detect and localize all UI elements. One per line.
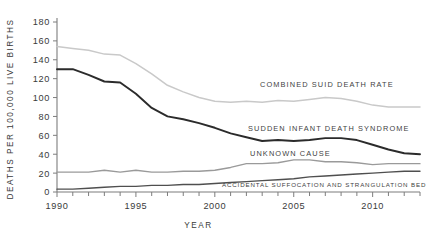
series-lines xyxy=(57,47,420,190)
y-tick-label: 180 xyxy=(33,17,50,27)
x-tick-label: 2000 xyxy=(203,201,226,211)
y-axis-title: DEATHS PER 100,000 LIVE BIRTHS xyxy=(6,19,15,200)
y-tick-label: 100 xyxy=(33,93,50,103)
x-axis-title: YEAR xyxy=(184,221,212,230)
x-axis-group: 19901995200020052010 xyxy=(46,192,420,211)
y-tick-label: 60 xyxy=(39,131,50,141)
y-tick-label: 120 xyxy=(33,74,50,84)
x-tick-label: 1990 xyxy=(46,201,69,211)
series-inline-label: COMBINED SUID DEATH RATE xyxy=(260,80,394,89)
y-axis-group: 020406080100120140160180 xyxy=(33,17,57,197)
series-inline-label: SUDDEN INFANT DEATH SYNDROME xyxy=(248,124,410,133)
x-axis-tick-labels: 19901995200020052010 xyxy=(46,201,384,211)
y-tick-label: 40 xyxy=(39,150,50,160)
x-tick-label: 2010 xyxy=(361,201,384,211)
y-tick-label: 0 xyxy=(44,187,50,197)
x-tick-label: 2005 xyxy=(282,201,305,211)
y-tick-label: 80 xyxy=(39,112,50,122)
y-tick-label: 160 xyxy=(33,36,50,46)
series-line xyxy=(57,47,420,107)
chart-container: 020406080100120140160180 199019952000200… xyxy=(0,0,434,237)
y-tick-label: 140 xyxy=(33,55,50,65)
y-axis-ticks xyxy=(53,22,57,192)
series-inline-label: UNKNOWN CAUSE xyxy=(250,149,331,158)
y-axis-tick-labels: 020406080100120140160180 xyxy=(33,17,50,197)
suid-death-rate-line-chart: 020406080100120140160180 199019952000200… xyxy=(0,0,434,237)
series-inline-label: ACCIDENTAL SUFFOCATION AND STRANGULATION… xyxy=(222,181,426,188)
y-tick-label: 20 xyxy=(39,169,50,179)
x-axis-ticks xyxy=(57,192,420,197)
series-line xyxy=(57,160,420,172)
x-tick-label: 1995 xyxy=(124,201,147,211)
